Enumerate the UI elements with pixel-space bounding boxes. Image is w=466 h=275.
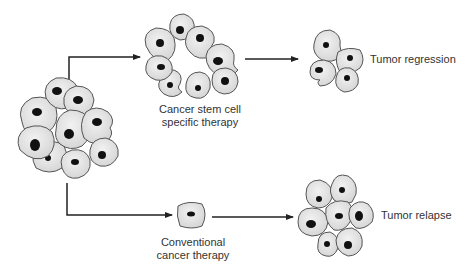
regression-cluster — [310, 30, 363, 92]
initial-tumor-cluster — [18, 78, 118, 179]
conventional-cell — [177, 202, 205, 228]
conventional-therapy-label-line1: Conventional — [150, 236, 236, 249]
arrow-to-csc-therapy — [69, 57, 140, 84]
arrow-to-conventional — [67, 183, 172, 215]
tumor-relapse-label: Tumor relapse — [381, 209, 452, 222]
conventional-therapy-label-line2: cancer therapy — [150, 249, 236, 262]
diagram-canvas: Cancer stem cell specific therapy Tumor … — [0, 0, 466, 275]
csc-therapy-label-line1: Cancer stem cell — [152, 103, 248, 116]
csc-therapy-label: Cancer stem cell specific therapy — [152, 103, 248, 129]
diagram-graphics — [0, 0, 466, 275]
relapse-cluster — [298, 175, 373, 256]
csc-therapy-label-line2: specific therapy — [152, 116, 248, 129]
conventional-therapy-label: Conventional cancer therapy — [150, 236, 236, 262]
csc-therapy-ring — [145, 14, 238, 98]
tumor-regression-label: Tumor regression — [370, 53, 456, 66]
